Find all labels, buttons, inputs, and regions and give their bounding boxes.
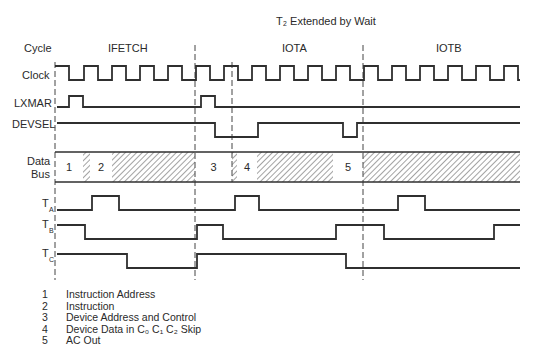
signal-label-data: Data xyxy=(27,155,51,167)
bus-invalid-segment xyxy=(83,152,90,182)
svg-text:C: C xyxy=(49,256,54,263)
timing-diagram: T₂ Extended by Wait Cycle IFETCH IOTA IO… xyxy=(0,0,548,290)
cycle-iota-label: IOTA xyxy=(282,42,308,54)
signal-label-clock: Clock xyxy=(22,69,50,81)
diagram-title: T₂ Extended by Wait xyxy=(276,15,376,27)
clock-waveform xyxy=(55,66,520,80)
tb-waveform xyxy=(57,225,520,239)
legend-text: Instruction Address xyxy=(66,289,155,301)
signal-label-tb: T B xyxy=(42,218,54,234)
ta-waveform xyxy=(57,196,520,210)
svg-text:T: T xyxy=(42,218,49,230)
svg-text:B: B xyxy=(49,227,54,234)
legend-number: 5 xyxy=(42,335,66,347)
legend: 1Instruction Address2Instruction3Device … xyxy=(42,289,201,347)
signal-label-ta: T A xyxy=(42,197,54,213)
cycle-label: Cycle xyxy=(24,42,52,54)
bus-segment-label-2: 2 xyxy=(98,161,104,173)
devsel-waveform xyxy=(57,123,520,137)
signal-label-tc: T C xyxy=(42,247,54,263)
data-bus-lane: 12345 xyxy=(55,152,520,182)
svg-text:T: T xyxy=(42,197,49,209)
signal-label-lxmar: LXMAR xyxy=(14,97,52,109)
legend-number: 1 xyxy=(42,289,66,301)
bus-invalid-segment xyxy=(232,152,237,182)
bus-segment-label-5: 5 xyxy=(345,161,351,173)
signal-label-bus: Bus xyxy=(31,168,50,180)
signal-label-devsel: DEVSEL xyxy=(12,118,55,130)
bus-invalid-segment xyxy=(363,152,520,182)
bus-segment-label-4: 4 xyxy=(244,161,250,173)
cycle-ifetch-label: IFETCH xyxy=(108,42,148,54)
svg-text:A: A xyxy=(49,206,54,213)
legend-item: 5AC Out xyxy=(42,335,201,347)
bus-segment-label-3: 3 xyxy=(211,161,217,173)
bus-segment-label-1: 1 xyxy=(66,161,72,173)
svg-text:T: T xyxy=(42,247,49,259)
legend-item: 1Instruction Address xyxy=(42,289,201,301)
bus-invalid-segment xyxy=(257,152,333,182)
legend-text: AC Out xyxy=(66,335,100,347)
tc-waveform xyxy=(57,254,520,268)
cycle-iotb-label: IOTB xyxy=(436,42,462,54)
lxmar-waveform xyxy=(57,96,520,107)
bus-invalid-segment xyxy=(112,152,195,182)
